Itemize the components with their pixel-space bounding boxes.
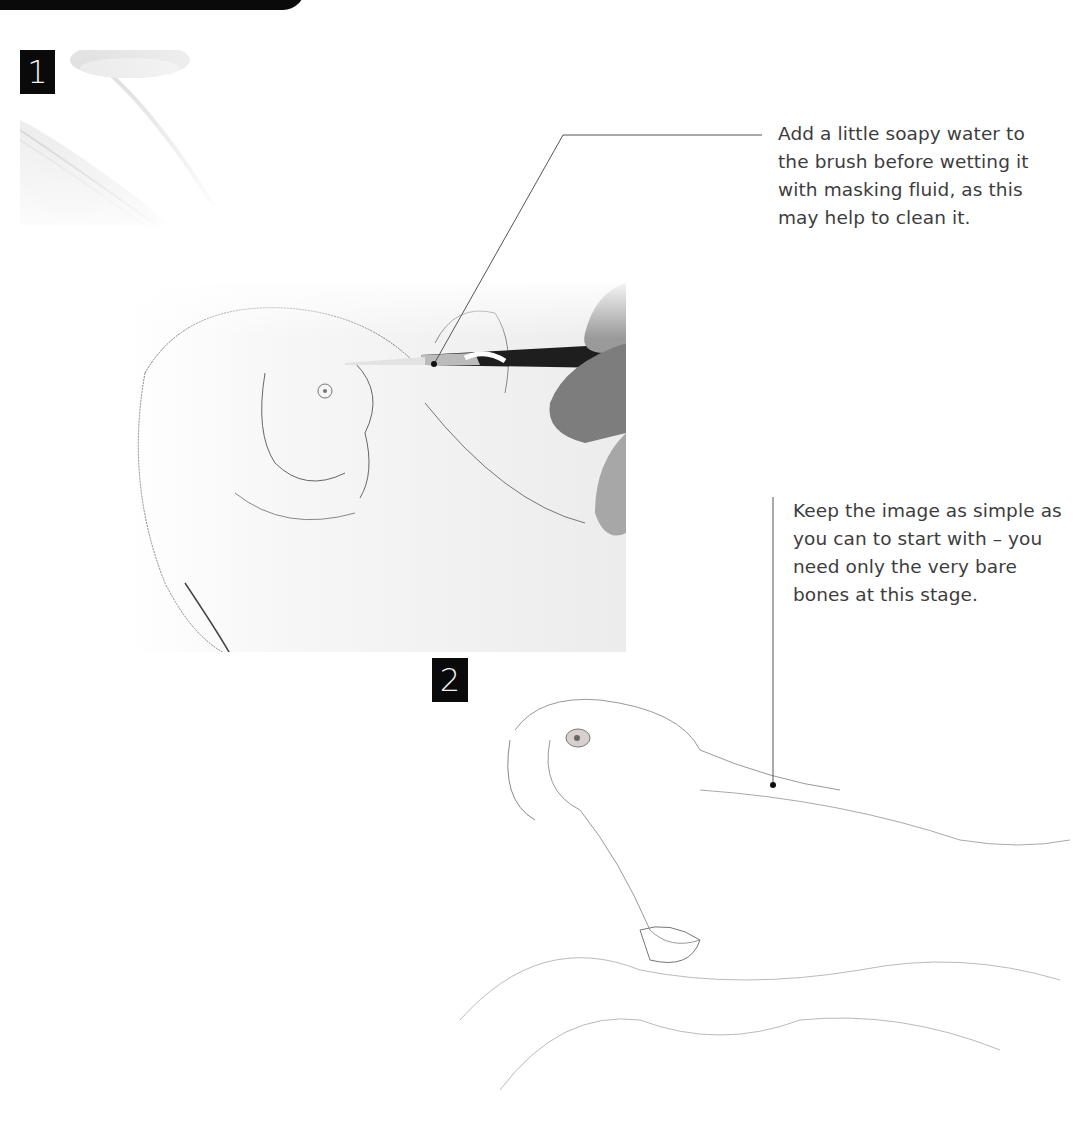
- caption-line: the brush before wetting it: [778, 148, 1068, 176]
- step-number-badge: 1: [20, 50, 55, 94]
- caption-line: with masking fluid, as this: [778, 176, 1068, 204]
- caption-line: Keep the image as simple as: [793, 497, 1082, 525]
- step-number: 2: [440, 664, 460, 696]
- brush-masking-photo: [125, 283, 626, 652]
- step-number-badge: 2: [432, 658, 468, 702]
- masking-fluid-jar-image: [20, 50, 280, 230]
- caption-line: may help to clean it.: [778, 204, 1068, 232]
- section-header-bar: Getting started: [0, 0, 305, 10]
- step-number: 1: [27, 56, 47, 88]
- caption-line: bones at this stage.: [793, 581, 1082, 609]
- parrot-sketch-image: [440, 690, 1082, 1110]
- caption-line: you can to start with – you: [793, 525, 1082, 553]
- caption-soapy-water: Add a little soapy water to the brush be…: [778, 120, 1068, 232]
- caption-keep-simple: Keep the image as simple as you can to s…: [793, 497, 1082, 609]
- caption-line: need only the very bare: [793, 553, 1082, 581]
- caption-line: Add a little soapy water to: [778, 120, 1068, 148]
